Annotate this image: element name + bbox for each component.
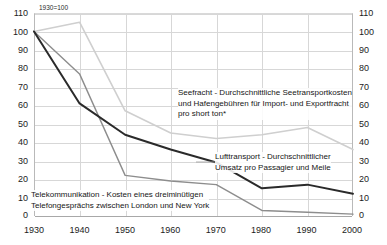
gridline-x-1940: [80, 14, 81, 216]
xtick-1970: 1970: [196, 226, 236, 235]
ytick-left-90: 90: [4, 46, 28, 55]
xtick-1960: 1960: [150, 226, 190, 235]
ytick-right-20: 20: [359, 175, 383, 184]
annotation-lufttransport-line-1: Lufttransport - Durchschnittlicher: [215, 152, 331, 163]
gridline-x-1960: [171, 14, 172, 216]
ytick-right-110: 110: [359, 9, 383, 18]
annotation-telekommunikation-line-1: Telekommunikation - Kosten eines dreimin…: [31, 190, 209, 201]
annotation-telekommunikation-line-2: Telefongesprächs zwischen London und New…: [31, 201, 209, 212]
ytick-left-20: 20: [4, 175, 28, 184]
ytick-right-80: 80: [359, 64, 383, 73]
ytick-right-50: 50: [359, 120, 383, 129]
annotation-lufttransport-line-2: Umsatz pro Passagier und Meile: [215, 163, 331, 174]
ytick-left-10: 10: [4, 194, 28, 203]
ytick-right-100: 100: [359, 28, 383, 37]
ytick-left-70: 70: [4, 83, 28, 92]
annotation-lufttransport: Lufttransport - Durchschnittlicher Umsat…: [215, 152, 331, 173]
ytick-left-100: 100: [4, 28, 28, 37]
xtick-1990: 1990: [287, 226, 327, 235]
ytick-right-70: 70: [359, 83, 383, 92]
ytick-left-30: 30: [4, 157, 28, 166]
gridline-y-40: [35, 143, 352, 144]
ytick-right-0: 0: [359, 211, 383, 220]
ytick-right-40: 40: [359, 138, 383, 147]
gridline-x-1950: [126, 14, 127, 216]
ytick-left-60: 60: [4, 101, 28, 110]
ytick-left-80: 80: [4, 64, 28, 73]
gridline-y-100: [35, 32, 352, 33]
annotation-telekommunikation: Telekommunikation - Kosten eines dreimin…: [31, 190, 209, 211]
xtick-2000: 2000: [332, 226, 372, 235]
ytick-right-60: 60: [359, 101, 383, 110]
ytick-left-110: 110: [4, 9, 28, 18]
ytick-left-50: 50: [4, 120, 28, 129]
annotation-seefracht-line-3: pro short ton*: [178, 109, 352, 120]
ytick-left-40: 40: [4, 138, 28, 147]
ytick-right-90: 90: [359, 46, 383, 55]
annotation-seefracht: Seefracht - Durchschnittliche Seetranspo…: [178, 88, 352, 120]
xtick-1940: 1940: [59, 226, 99, 235]
gridline-y-80: [35, 69, 352, 70]
gridline-y-90: [35, 51, 352, 52]
line-chart: 1930=100 110 100 90 80 70 60 50 40 3: [0, 0, 387, 245]
gridline-y-0: [35, 216, 352, 217]
xtick-1950: 1950: [105, 226, 145, 235]
ytick-right-10: 10: [359, 194, 383, 203]
xtick-1980: 1980: [241, 226, 281, 235]
ytick-right-30: 30: [359, 157, 383, 166]
xtick-1930: 1930: [14, 226, 54, 235]
index-base-note: 1930=100: [39, 4, 68, 11]
gridline-y-20: [35, 180, 352, 181]
ytick-left-0: 0: [4, 211, 28, 220]
annotation-seefracht-line-2: und Hafengebühren für Import- und Export…: [178, 99, 352, 110]
annotation-seefracht-line-1: Seefracht - Durchschnittliche Seetranspo…: [178, 88, 352, 99]
gridline-y-50: [35, 125, 352, 126]
gridline-y-110: [35, 14, 352, 15]
